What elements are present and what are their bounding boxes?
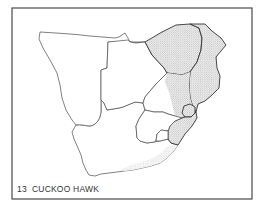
figure-caption: 13 CUCKOO HAWK: [17, 184, 99, 194]
distribution-map: [0, 0, 263, 211]
